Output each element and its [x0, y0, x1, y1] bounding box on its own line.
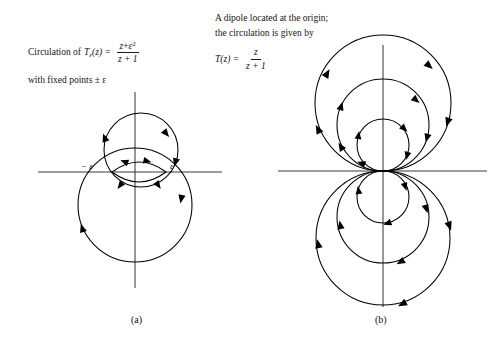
panel-a-arrow-lower-right	[177, 194, 186, 204]
panel-b-arrow-u1-a	[399, 124, 410, 135]
panel-a-arrow-lens-bottom-left	[115, 180, 125, 191]
panel-b-diagram	[278, 35, 487, 310]
panel-a-arrow-lower-left	[77, 223, 87, 233]
panel-b-arrow-u1-b	[403, 151, 412, 161]
panel-b-arrow-u2-a	[411, 95, 422, 106]
panel-b-arrow-u2-d	[337, 101, 347, 111]
panel-b-arrow-l3-b	[396, 299, 408, 310]
panel-a-label-epsilon: ε	[170, 161, 174, 171]
panel-b-arrow-u3-a	[423, 60, 435, 72]
panel-b-arrow-l2-b	[395, 257, 406, 268]
panel-b-arrow-u2-b	[422, 133, 431, 143]
panel-a-label-minus-epsilon: − ε	[81, 161, 93, 171]
panel-b-label: (b)	[375, 314, 387, 325]
panel-b-arrow-u3-b	[443, 117, 453, 128]
diagram-canvas: − ε ε	[0, 0, 494, 345]
panel-a-upper-flow-circle	[104, 113, 178, 187]
panel-a-arrow-upper-right	[161, 128, 172, 139]
panel-a-diagram: − ε ε	[38, 92, 222, 288]
figure-root: Circulation of Tε(z) = z+ε2 z + 1 with f…	[0, 0, 494, 345]
panel-b-arrow-u1-d	[355, 130, 363, 139]
panel-b-arrow-u3-d	[322, 67, 333, 79]
panel-a-arrow-lens-bottom-right	[153, 180, 163, 191]
panel-b-arrow-l3-c	[313, 238, 322, 248]
panel-b-arrow-l1-c	[354, 185, 362, 194]
panel-b-arrow-l2-a	[422, 204, 432, 214]
panel-a-label: (a)	[131, 314, 142, 325]
